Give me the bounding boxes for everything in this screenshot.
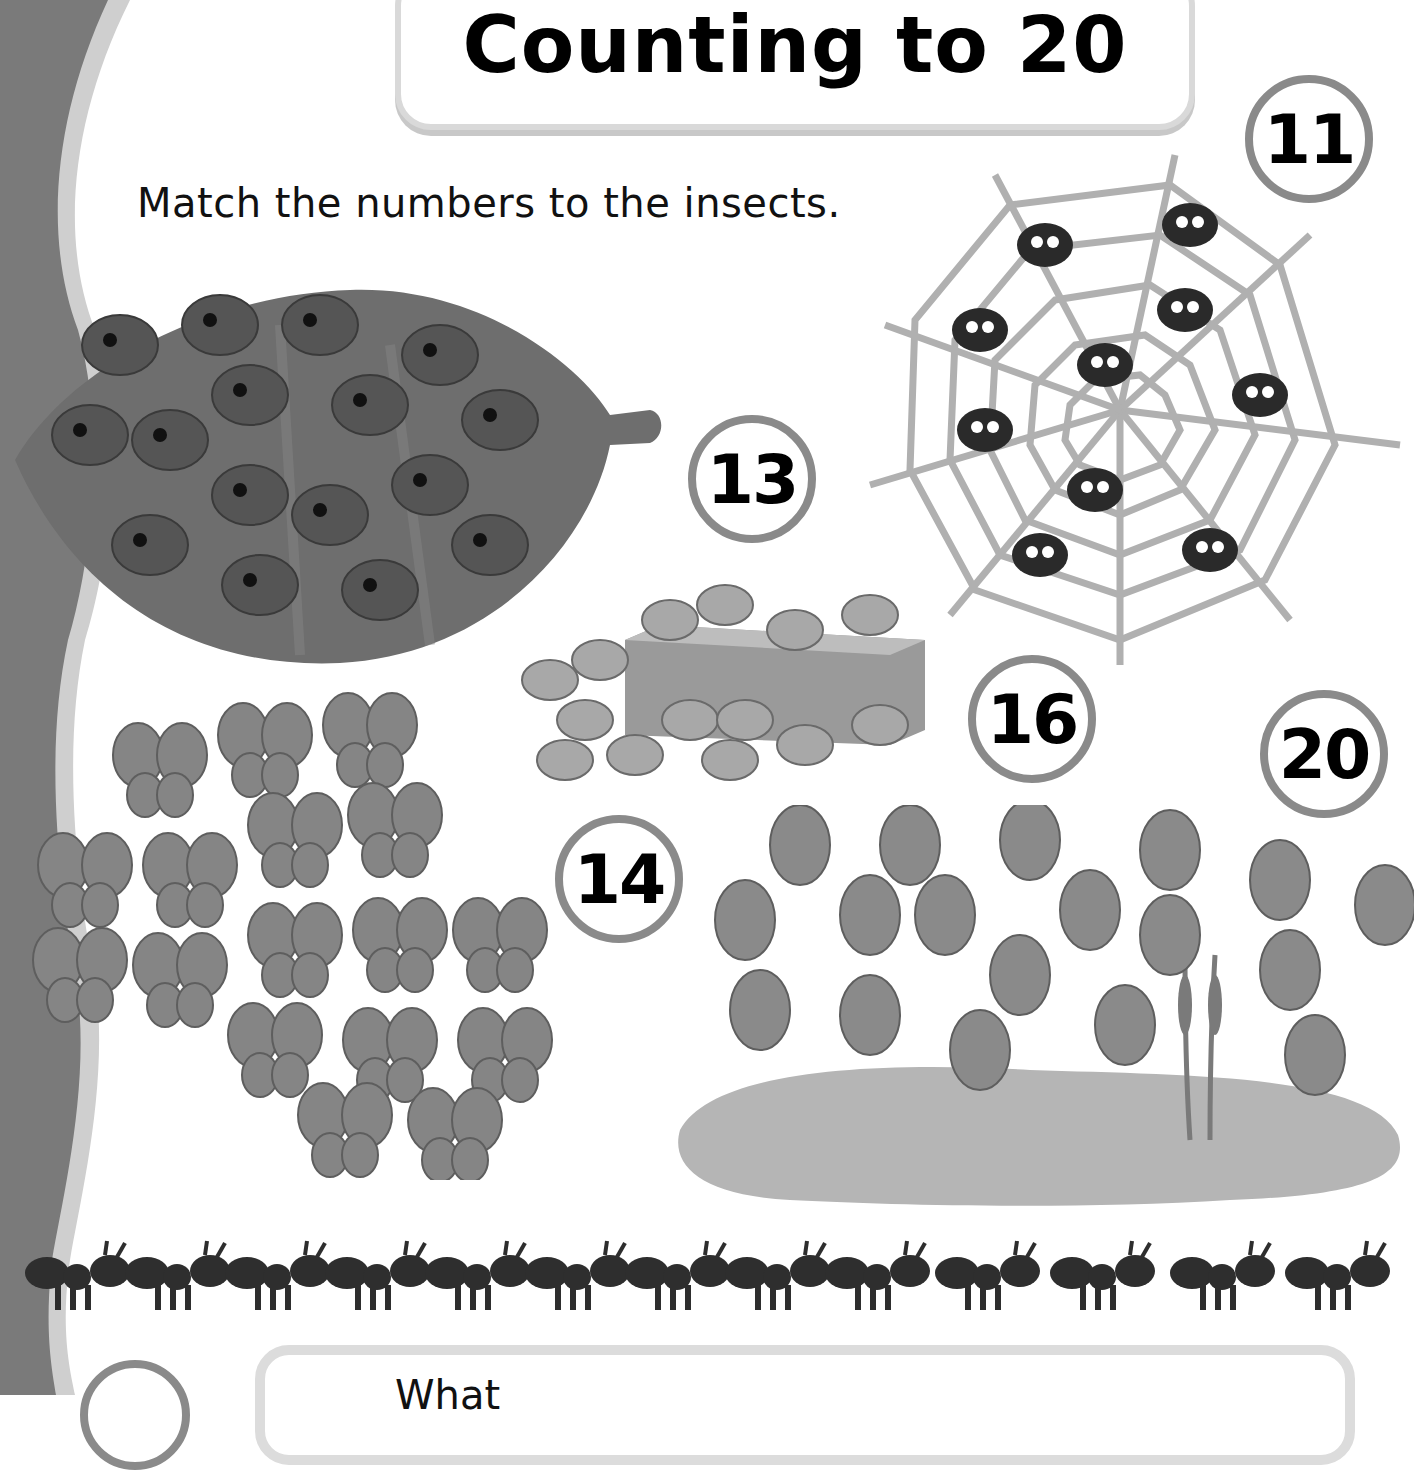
number-label: 14 bbox=[574, 840, 665, 919]
instruction-text: Match the numbers to the insects. bbox=[137, 180, 841, 226]
butterflies-illustration bbox=[25, 690, 585, 1180]
page-title: Counting to 20 bbox=[462, 6, 1127, 84]
number-label: 13 bbox=[707, 440, 798, 519]
spiders-on-web-illustration bbox=[865, 150, 1410, 670]
number-label: 16 bbox=[987, 680, 1078, 759]
number-circle-14[interactable]: 14 bbox=[555, 815, 683, 943]
number-label: 20 bbox=[1279, 715, 1370, 794]
number-circle-20[interactable]: 20 bbox=[1260, 690, 1388, 818]
number-circle-16[interactable]: 16 bbox=[968, 655, 1096, 783]
bottom-question-text: What bbox=[395, 1372, 500, 1418]
bottom-badge-circle bbox=[80, 1360, 190, 1470]
number-label: 11 bbox=[1264, 100, 1355, 179]
number-circle-11[interactable]: 11 bbox=[1245, 75, 1373, 203]
dragonflies-over-pond-illustration bbox=[670, 805, 1414, 1220]
number-circle-13[interactable]: 13 bbox=[688, 415, 816, 543]
ants-row-illustration bbox=[25, 1235, 1395, 1315]
title-banner: Counting to 20 bbox=[395, 0, 1195, 130]
